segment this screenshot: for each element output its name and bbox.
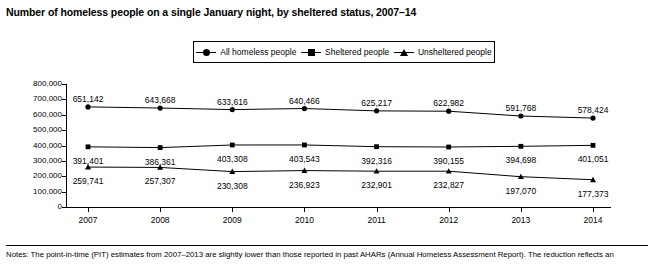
y-axis-tick-label: 200,000 — [33, 171, 62, 180]
data-point-marker — [302, 143, 307, 148]
legend-item-sheltered-people: Sheltered people — [301, 47, 389, 57]
data-point-label: 640,466 — [289, 96, 320, 106]
data-point-label: 390,155 — [433, 156, 464, 166]
x-axis-tick-mark — [449, 208, 450, 212]
data-point-marker — [446, 109, 451, 114]
x-axis-tick-mark — [521, 208, 522, 212]
data-point-label: 622,982 — [433, 98, 464, 108]
legend-marker-square-icon — [301, 48, 321, 57]
x-axis-tick-label: 2009 — [223, 215, 242, 225]
data-point-marker — [374, 108, 379, 113]
x-axis-tick-mark — [160, 208, 161, 212]
data-point-label: 578,424 — [578, 105, 609, 115]
y-axis-tick-labels: 0100,000200,000300,000400,000500,000600,… — [6, 84, 62, 208]
legend-marker-circle-icon — [196, 48, 216, 57]
data-point-label: 392,316 — [361, 156, 392, 166]
data-point-marker — [158, 105, 163, 110]
data-point-label: 197,070 — [505, 186, 536, 196]
legend-item-unsheltered-people: Unsheltered people — [394, 47, 492, 57]
y-axis-tick-mark — [62, 207, 66, 208]
data-point-label: 391,401 — [73, 156, 104, 166]
y-axis-tick-mark — [62, 99, 66, 100]
data-point-marker — [590, 115, 595, 120]
y-axis-tick-mark — [62, 176, 66, 177]
data-point-label: 232,901 — [361, 180, 392, 190]
data-point-label: 394,698 — [505, 155, 536, 165]
data-point-label: 651,142 — [73, 94, 104, 104]
data-point-label: 177,373 — [578, 189, 609, 199]
data-point-label: 232,827 — [433, 180, 464, 190]
series-line-1 — [88, 145, 593, 148]
y-axis-tick-label: 100,000 — [33, 187, 62, 196]
x-axis-tick-label: 2011 — [367, 215, 385, 225]
y-axis-tick-label: 300,000 — [33, 156, 62, 165]
y-axis-tick-mark — [62, 161, 66, 162]
chart-legend: All homeless people Sheltered people Uns… — [193, 41, 495, 63]
data-point-label: 259,741 — [73, 176, 104, 186]
data-point-marker — [85, 104, 90, 109]
y-axis-tick-label: 400,000 — [33, 141, 62, 150]
y-axis-tick-mark — [62, 192, 66, 193]
data-point-marker — [230, 107, 235, 112]
legend-item-all-homeless-people: All homeless people — [196, 47, 296, 57]
data-point-marker — [86, 144, 91, 149]
data-point-label: 386,361 — [145, 157, 176, 167]
y-axis-tick-mark — [62, 146, 66, 147]
data-point-label: 257,307 — [145, 176, 176, 186]
y-axis-tick-mark — [62, 115, 66, 116]
data-point-marker — [158, 145, 163, 150]
x-axis-tick-label: 2013 — [511, 215, 530, 225]
y-axis-tick-label: 700,000 — [33, 94, 62, 103]
data-point-label: 401,051 — [578, 154, 609, 164]
y-axis-tick-mark — [62, 84, 66, 85]
x-axis-tick-mark — [232, 208, 233, 212]
data-point-label: 230,308 — [217, 181, 248, 191]
chart-footnote: Notes: The point-in-time (PIT) estimates… — [6, 250, 648, 260]
data-point-marker — [230, 143, 235, 148]
legend-marker-triangle-icon — [394, 48, 414, 57]
x-axis-tick-label: 2010 — [295, 215, 314, 225]
chart-title: Number of homeless people on a single Ja… — [6, 6, 416, 18]
data-point-label: 633,616 — [217, 97, 248, 107]
x-axis-tick-mark — [377, 208, 378, 212]
legend-label-unsheltered-people: Unsheltered people — [418, 47, 492, 57]
legend-label-all-homeless-people: All homeless people — [220, 47, 296, 57]
data-point-marker — [446, 145, 451, 150]
data-point-marker — [591, 143, 596, 148]
x-axis-tick-mark — [593, 208, 594, 212]
x-axis-tick-mark — [88, 208, 89, 212]
x-axis-tick-label: 2007 — [79, 215, 98, 225]
x-axis-tick-label: 2014 — [584, 215, 603, 225]
data-point-label: 625,217 — [361, 98, 392, 108]
data-point-marker — [302, 106, 307, 111]
data-point-label: 403,308 — [217, 154, 248, 164]
data-point-label: 236,923 — [289, 180, 320, 190]
x-axis-tick-label: 2008 — [151, 215, 170, 225]
plot-area: 20072008200920102011201220132014651,1426… — [66, 84, 611, 208]
legend-label-sheltered-people: Sheltered people — [325, 47, 389, 57]
footnote-divider — [6, 245, 648, 246]
data-point-marker — [518, 144, 523, 149]
y-axis-tick-label: 600,000 — [33, 110, 62, 119]
x-axis-tick-label: 2012 — [439, 215, 458, 225]
data-point-marker — [518, 113, 523, 118]
chart-container: Number of homeless people on a single Ja… — [0, 0, 654, 271]
x-axis-tick-mark — [304, 208, 305, 212]
y-axis-tick-label: 800,000 — [33, 79, 62, 88]
data-point-label: 643,668 — [145, 95, 176, 105]
y-axis-tick-label: 500,000 — [33, 125, 62, 134]
data-point-label: 403,543 — [289, 154, 320, 164]
data-point-label: 591,768 — [505, 103, 536, 113]
y-axis-tick-mark — [62, 130, 66, 131]
data-point-marker — [374, 144, 379, 149]
